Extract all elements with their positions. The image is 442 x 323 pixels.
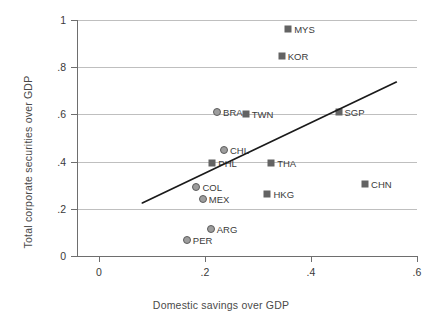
trendline [0,0,442,323]
scatter-chart: Total corporate securities over GDP Dome… [0,0,442,323]
